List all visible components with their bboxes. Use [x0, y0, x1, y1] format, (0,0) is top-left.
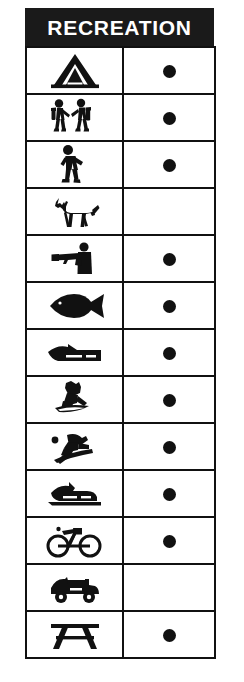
legend-row: [26, 282, 215, 329]
legend-row: [26, 141, 215, 188]
legend-icon-cell: [26, 470, 123, 517]
availability-dot: [163, 347, 176, 360]
legend-row: [26, 423, 215, 470]
legend-icon-cell: [26, 141, 123, 188]
picnic-table-icon: [27, 612, 122, 657]
legend-mark-cell: [123, 94, 215, 141]
legend-row: [26, 517, 215, 564]
legend-icon-cell: [26, 47, 123, 94]
legend-row: [26, 188, 215, 235]
legend-row: [26, 470, 215, 517]
legend-row: [26, 47, 215, 94]
availability-dot: [163, 441, 176, 454]
boat-icon: [27, 330, 122, 375]
bicycle-icon: [27, 518, 122, 563]
legend-mark-cell: [123, 517, 215, 564]
walking-person-icon: [27, 142, 122, 187]
legend-header: RECREATION: [25, 8, 214, 46]
legend-table-body: [26, 47, 215, 658]
legend-mark-cell: [123, 188, 215, 235]
legend-icon-cell: [26, 564, 123, 611]
availability-dot: [163, 253, 176, 266]
availability-dot: [163, 394, 176, 407]
legend-icon-cell: [26, 94, 123, 141]
off-road-vehicle-icon: [27, 565, 122, 610]
legend-row: [26, 564, 215, 611]
legend-mark-cell: [123, 376, 215, 423]
legend-mark-cell: [123, 611, 215, 658]
legend-mark-cell: [123, 564, 215, 611]
legend-icon-cell: [26, 517, 123, 564]
water-skier-icon: [27, 377, 122, 422]
availability-dot: [163, 629, 176, 642]
legend-row: [26, 329, 215, 376]
hunter-rifle-icon: [27, 236, 122, 281]
legend-mark-cell: [123, 235, 215, 282]
snowmobile-icon: [27, 471, 122, 516]
legend-mark-cell: [123, 329, 215, 376]
snow-skier-icon: [27, 424, 122, 469]
legend-icon-cell: [26, 376, 123, 423]
fish-icon: [27, 283, 122, 328]
availability-dot: [163, 488, 176, 501]
legend-icon-cell: [26, 235, 123, 282]
availability-dot: [163, 300, 176, 313]
legend-icon-cell: [26, 329, 123, 376]
legend-icon-cell: [26, 423, 123, 470]
legend-row: [26, 94, 215, 141]
recreation-legend-table: [25, 46, 216, 659]
legend-row: [26, 376, 215, 423]
availability-dot: [163, 535, 176, 548]
horse-icon: [27, 189, 122, 234]
legend-mark-cell: [123, 470, 215, 517]
legend-header-title: RECREATION: [47, 17, 191, 38]
legend-icon-cell: [26, 188, 123, 235]
hikers-icon: [27, 95, 122, 140]
legend-mark-cell: [123, 423, 215, 470]
availability-dot: [163, 159, 176, 172]
recreation-legend-panel: RECREATION: [25, 8, 214, 659]
legend-mark-cell: [123, 282, 215, 329]
availability-dot: [163, 65, 176, 78]
legend-row: [26, 611, 215, 658]
tent-icon: [27, 48, 122, 93]
availability-dot: [163, 112, 176, 125]
legend-row: [26, 235, 215, 282]
legend-mark-cell: [123, 47, 215, 94]
legend-mark-cell: [123, 141, 215, 188]
legend-icon-cell: [26, 282, 123, 329]
legend-icon-cell: [26, 611, 123, 658]
